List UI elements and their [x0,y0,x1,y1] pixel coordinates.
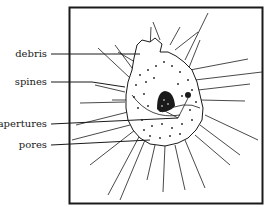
label-apertures: apertures [0,119,47,129]
label-spines: spines [15,77,47,87]
label-debris: debris [15,49,47,59]
organism-diagram [0,0,265,207]
label-pores: pores [19,140,47,150]
